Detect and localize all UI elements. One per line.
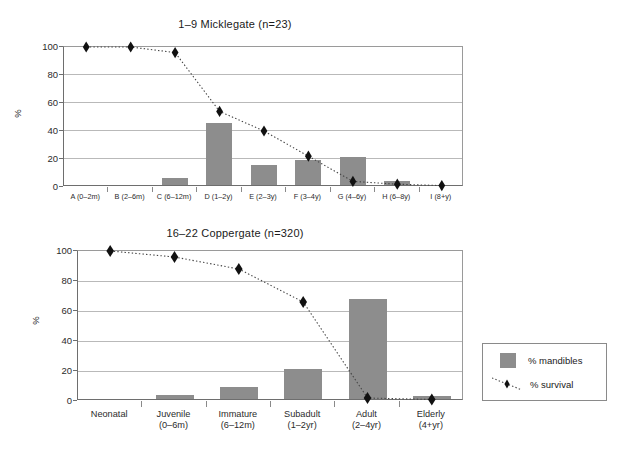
bar-G (340, 157, 366, 185)
bar-C (162, 178, 188, 185)
legend-swatch-mandibles (500, 353, 516, 368)
chart-title-micklegate: 1–9 Micklegate (n=23) (0, 18, 470, 30)
x-label-adult: Adult (2–4yr) (334, 409, 398, 430)
y-tick-label: 40 (28, 125, 58, 136)
chart-title-coppergate: 16–22 Coppergate (n=320) (0, 227, 470, 239)
x-tick-mark (334, 401, 335, 407)
x-tick-mark (141, 401, 142, 407)
bar-juvenile (156, 395, 194, 400)
y-tick-label: 60 (28, 97, 58, 108)
x-label-G: G (4–6y) (330, 192, 374, 201)
gridline (78, 281, 462, 282)
x-label-H: H (6–8y) (374, 192, 418, 201)
x-tick-mark (399, 401, 400, 407)
y-tick-label: 100 (28, 41, 58, 52)
legend-item-survival: % survival (492, 377, 573, 391)
x-label-subadult: Subadult (1–2yr) (270, 409, 334, 430)
x-label-juvenile: Juvenile (0–6m) (141, 409, 205, 430)
y-axis-title-micklegate: % (12, 107, 23, 121)
gridline (64, 130, 462, 131)
y-tick-label: 0 (42, 395, 72, 406)
chart-micklegate: 1–9 Micklegate (n=23) % 100 80 60 40 20 … (0, 0, 470, 210)
gridline (78, 371, 462, 372)
x-label-A: A (0–2m) (63, 192, 107, 201)
y-axis-title-coppergate: % (30, 314, 41, 328)
plot-area-micklegate (63, 46, 463, 186)
bar-E (251, 165, 277, 185)
y-tick-label: 20 (42, 365, 72, 376)
bar-F (295, 160, 321, 185)
x-label-I: I (8+y) (419, 192, 463, 201)
gridline (64, 74, 462, 75)
legend-label-mandibles: % mandibles (528, 355, 582, 366)
bar-subadult (284, 369, 322, 399)
x-label-elderly: Elderly (4+yr) (399, 409, 463, 430)
x-label-E: E (2–3y) (241, 192, 285, 201)
y-tick-label: 60 (42, 305, 72, 316)
y-tick-mark (59, 186, 63, 187)
gridline (64, 158, 462, 159)
legend-marker-survival (492, 377, 522, 391)
x-label-immature: Immature (6–12m) (206, 409, 270, 430)
bar-elderly (413, 396, 451, 399)
bar-immature (220, 387, 258, 399)
legend-label-survival: % survival (530, 379, 573, 390)
x-label-neonatal: Neonatal (77, 409, 141, 420)
x-label-D: D (1–2y) (196, 192, 240, 201)
legend: % mandibles % survival (482, 343, 607, 401)
y-tick-mark (73, 400, 77, 401)
plot-area-coppergate (77, 250, 463, 400)
y-tick-label: 40 (42, 335, 72, 346)
y-tick-label: 20 (28, 153, 58, 164)
y-tick-label: 80 (42, 275, 72, 286)
x-tick-mark (206, 401, 207, 407)
x-tick-mark (270, 401, 271, 407)
figure-root: { "figure": { "legend": { "mandibles_lab… (0, 0, 625, 450)
y-tick-label: 0 (28, 181, 58, 192)
survival-line-coppergate (78, 251, 464, 401)
bar-adult (349, 299, 387, 400)
gridline (64, 102, 462, 103)
legend-item-mandibles: % mandibles (500, 353, 582, 368)
gridline (78, 341, 462, 342)
gridline (78, 311, 462, 312)
x-label-F: F (3–4y) (285, 192, 329, 201)
bar-D (206, 123, 232, 185)
chart-coppergate: 16–22 Coppergate (n=320) % 100 80 60 40 … (0, 215, 470, 450)
x-label-B: B (2–6m) (107, 192, 151, 201)
y-tick-label: 80 (28, 69, 58, 80)
x-label-C: C (6–12m) (152, 192, 196, 201)
y-tick-label: 100 (42, 245, 72, 256)
bar-H (384, 181, 410, 185)
